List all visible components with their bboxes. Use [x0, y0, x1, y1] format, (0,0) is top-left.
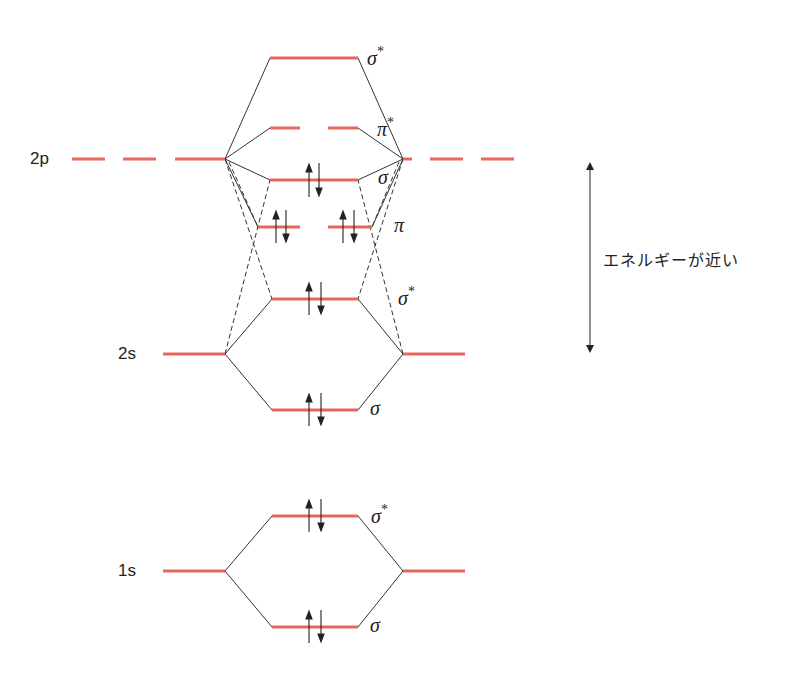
label-1s: 1s [118, 561, 136, 581]
label-sigma-2p: σ [378, 166, 388, 189]
label-sigma-star-2s: σ* [398, 284, 415, 310]
sp-mixing-dashed-lines [225, 159, 403, 354]
energy-levels [72, 58, 514, 627]
energy-close-annotation: エネルギーが近い [603, 247, 739, 271]
connector-lines [225, 58, 403, 627]
label-pi-star-2p: π* [377, 115, 394, 141]
label-sigma-1s: σ [370, 614, 380, 637]
label-pi-2p: π [394, 214, 404, 237]
label-2p: 2p [30, 149, 49, 169]
label-sigma-star-1s: σ* [371, 502, 388, 528]
label-sigma-star-2p: σ* [367, 44, 384, 70]
label-2s: 2s [118, 344, 136, 364]
label-sigma-2s: σ [370, 397, 380, 420]
electron-pairs [273, 163, 357, 643]
